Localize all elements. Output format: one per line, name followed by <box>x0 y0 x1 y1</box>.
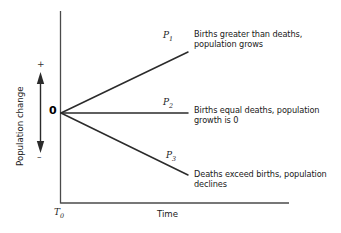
series-annotation-p1-line2: population grows <box>194 39 302 49</box>
series-line-p3 <box>61 113 188 175</box>
y-axis-negative-sign: – <box>37 152 42 162</box>
series-annotation-p2: Births equal deaths, population growth i… <box>194 105 319 125</box>
y-axis-zero-label: 0 <box>49 106 57 116</box>
y-axis-positive-sign: + <box>37 59 45 69</box>
series-label-p3: P3 <box>166 150 176 164</box>
series-annotation-p3-line1: Deaths exceed births, population <box>194 169 327 179</box>
series-annotation-p3-line2: declines <box>194 179 327 189</box>
series-annotation-p2-line2: growth is 0 <box>194 115 319 125</box>
series-label-p2-subscript: 2 <box>169 102 173 110</box>
x-axis-title: Time <box>157 209 178 219</box>
x-axis-origin-label: T0 <box>54 207 64 221</box>
population-change-direction-arrow <box>37 72 44 153</box>
population-change-chart: Population change + – 0 T0 Time P1 Birth… <box>0 0 341 233</box>
series-annotation-p1-line1: Births greater than deaths, <box>194 29 302 39</box>
series-label-p2: P2 <box>163 97 173 111</box>
series-label-p1: P1 <box>163 30 173 44</box>
x-axis-origin-subscript: 0 <box>60 212 64 220</box>
series-annotation-p1: Births greater than deaths, population g… <box>194 29 302 49</box>
series-annotation-p2-line1: Births equal deaths, population <box>194 105 319 115</box>
series-annotation-p3: Deaths exceed births, population decline… <box>194 169 327 189</box>
series-label-p1-subscript: 1 <box>169 35 173 43</box>
series-label-p3-subscript: 3 <box>172 155 176 163</box>
y-axis-title: Population change <box>15 86 25 166</box>
